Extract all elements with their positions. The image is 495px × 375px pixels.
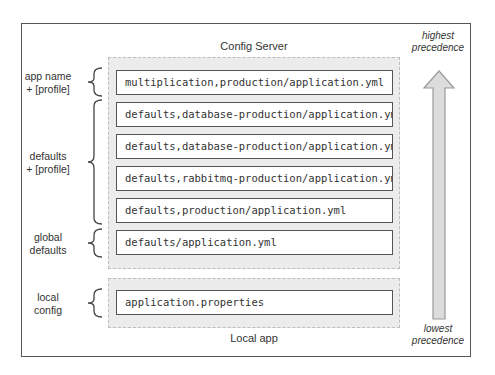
group-label-global-defaults: global defaults	[8, 231, 88, 257]
precedence-line: precedence	[403, 42, 473, 54]
file-application-properties: application.properties	[116, 290, 393, 315]
group-label-line: + [profile]	[8, 163, 88, 176]
group-label-app-name: app name + [profile]	[8, 70, 88, 96]
config-server-title: Config Server	[108, 40, 400, 52]
brace-icon	[84, 227, 106, 259]
file-defaults-rabbitmq-production: defaults,rabbitmq-production/application…	[116, 166, 393, 191]
group-label-line: local	[8, 291, 88, 304]
group-label-line: defaults	[8, 244, 88, 257]
precedence-arrow-icon	[422, 70, 456, 322]
brace-icon	[84, 66, 106, 98]
brace-icon	[84, 287, 106, 319]
group-label-line: app name	[8, 70, 88, 83]
group-label-line: config	[8, 304, 88, 317]
file-defaults-database-production-2: defaults,database-production/application…	[116, 134, 393, 159]
precedence-line: highest	[403, 30, 473, 42]
file-app-profile: multiplication,production/application.ym…	[116, 70, 393, 95]
file-defaults-production: defaults,production/application.yml	[116, 198, 393, 223]
group-label-local-config: local config	[8, 291, 88, 317]
file-defaults-global: defaults/application.yml	[116, 230, 393, 255]
precedence-line: precedence	[403, 335, 473, 347]
group-label-line: global	[8, 231, 88, 244]
group-label-line: + [profile]	[8, 83, 88, 96]
brace-icon	[84, 98, 106, 226]
group-label-defaults-profile: defaults + [profile]	[8, 150, 88, 176]
precedence-line: lowest	[403, 323, 473, 335]
file-defaults-database-production: defaults,database-production/application…	[116, 102, 393, 127]
group-label-line: defaults	[8, 150, 88, 163]
highest-precedence-label: highest precedence	[403, 30, 473, 54]
local-app-title: Local app	[108, 332, 400, 344]
lowest-precedence-label: lowest precedence	[403, 323, 473, 347]
